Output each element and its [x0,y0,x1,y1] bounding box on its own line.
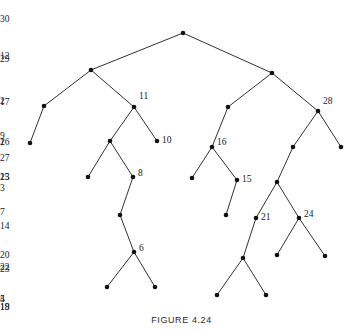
tree-edge [226,180,237,215]
tree-node-label: 14 [0,222,10,232]
tree-edge [228,73,272,107]
tree-edge [318,111,341,147]
tree-node-dot [316,109,321,114]
tree-edge [134,252,155,287]
tree-node-dot [89,68,94,73]
tree-edge [277,182,299,218]
tree-node-dot [297,216,302,221]
tree-node-dot [155,139,160,144]
tree-node-label: 30 [0,15,10,25]
tree-node-dot [153,285,158,290]
tree-node-dot [226,105,231,110]
tree-node-label: 24 [304,210,314,220]
figure-caption: FIGURE 4.24 [0,315,363,325]
tree-edge [110,141,133,177]
tree-node-dot [323,254,328,259]
tree-node-label: 17 [0,98,10,108]
tree-node-dot [131,175,136,180]
tree-node-dot [270,71,275,76]
tree-node-dot [339,145,344,150]
tree-node-dot [105,285,110,290]
tree-edge [91,70,134,107]
tree-edge [272,73,318,111]
tree-node-dot [224,213,229,218]
tree-node-label: 26 [0,138,10,148]
tree-node-dot [241,256,246,261]
tree-node-dot [215,293,220,298]
tree-node-label: 23 [0,265,10,275]
tree-node-dot [181,31,186,36]
tree-node-dot [190,176,195,181]
tree-node-label: 7 [0,208,5,218]
tree-node-dot [86,175,91,180]
tree-edge [91,33,183,70]
tree-edges [30,33,341,295]
tree-node-label: 10 [162,136,172,146]
tree-edge [134,107,157,141]
tree-node-dot [254,216,259,221]
tree-edge [183,33,272,73]
tree-node-dot [210,145,215,150]
tree-node-label: 25 [0,173,10,183]
tree-edge [277,147,293,182]
tree-edge [110,107,134,141]
tree-node-dot [275,180,280,185]
tree-edge [120,177,133,215]
tree-node-dot [132,250,137,255]
tree-node-label: 3 [0,184,5,194]
tree-edge [217,258,243,295]
tree-node-label: 6 [139,244,144,254]
tree-edge [212,147,237,180]
tree-edge [192,147,212,178]
tree-edge [88,141,110,177]
tree-node-dot [264,293,269,298]
tree-node-dot [118,213,123,218]
tree-node-label: 28 [323,97,333,107]
tree-node-label: 16 [217,138,227,148]
tree-node-label: 27 [0,154,10,164]
tree-node-label: 20 [0,251,10,261]
figure-container: 3012292111728191016262738131525714212462… [0,0,363,333]
tree-edge [293,111,318,147]
tree-node-label: 29 [0,55,10,65]
tree-edge [107,252,134,287]
tree-node-dot [28,141,33,146]
tree-edge [243,218,256,258]
tree-node-dot [108,139,113,144]
tree-node-label: 8 [138,169,143,179]
tree-edge [243,258,266,295]
tree-edge [120,215,134,252]
tree-node-dot [132,105,137,110]
tree-node-dot [42,104,47,109]
tree-node-dot [275,253,280,258]
tree-edge [44,70,91,106]
tree-node-label: 11 [139,92,148,102]
binary-tree-graphic [0,0,363,333]
tree-edge [277,218,299,255]
tree-node-label: 21 [261,213,271,223]
tree-node-dot [235,178,240,183]
tree-node-label: 19 [0,303,10,313]
tree-edge [299,218,325,256]
tree-nodes [28,31,344,298]
tree-edge [30,106,44,143]
tree-node-label: 15 [242,175,252,185]
tree-node-dot [291,145,296,150]
